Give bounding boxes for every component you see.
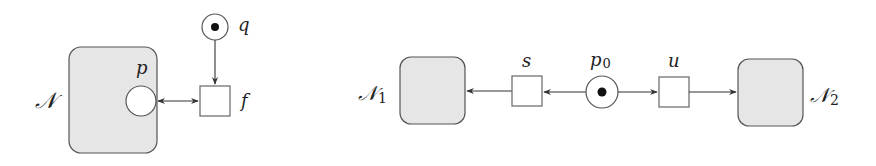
petri-net-figure: 𝒩 p f q 𝒩1 s p0 u 𝒩2 [0,0,876,166]
net-n1-box [400,57,465,124]
transition-u-label: u [668,50,680,71]
transition-u [659,77,689,107]
place-p [126,86,156,116]
place-p0-label: p0 [590,49,611,71]
net-n2-box [738,59,803,126]
token-q [211,23,219,31]
right-diagram: 𝒩1 s p0 u 𝒩2 [358,49,839,126]
left-diagram: 𝒩 p f q [35,14,251,153]
place-p-label: p [136,57,148,78]
net-n-label: 𝒩 [35,88,63,113]
transition-s [512,76,542,106]
transition-s-label: s [522,50,531,71]
transition-f-label: f [239,90,251,111]
transition-f [200,86,230,116]
place-q-label: q [238,14,250,35]
net-n1-label: 𝒩1 [358,81,387,106]
token-p0 [598,88,607,97]
net-n2-label: 𝒩2 [810,83,839,108]
